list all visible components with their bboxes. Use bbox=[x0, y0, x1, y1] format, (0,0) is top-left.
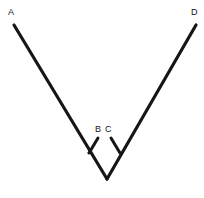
segment-ray-c bbox=[111, 138, 120, 153]
vertex-label-d: D bbox=[191, 8, 198, 17]
figure-canvas bbox=[0, 0, 204, 198]
vertex-label-c: C bbox=[105, 125, 112, 134]
segment-right-arm bbox=[107, 25, 196, 179]
segment-ray-b bbox=[89, 138, 98, 153]
segment-left-arm bbox=[14, 25, 107, 179]
geometry-figure: A D B C bbox=[0, 0, 204, 198]
vertex-label-b: B bbox=[95, 125, 101, 134]
vertex-label-a: A bbox=[8, 8, 14, 17]
